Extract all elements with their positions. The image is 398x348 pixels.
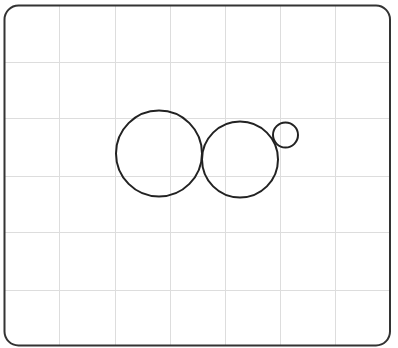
diagram-canvas [0, 0, 398, 348]
diagram-frame [5, 6, 391, 346]
large-circle [116, 111, 202, 197]
small-circle [273, 123, 298, 148]
grid [5, 6, 391, 346]
medium-circle [202, 122, 278, 198]
circles-group [116, 111, 298, 198]
